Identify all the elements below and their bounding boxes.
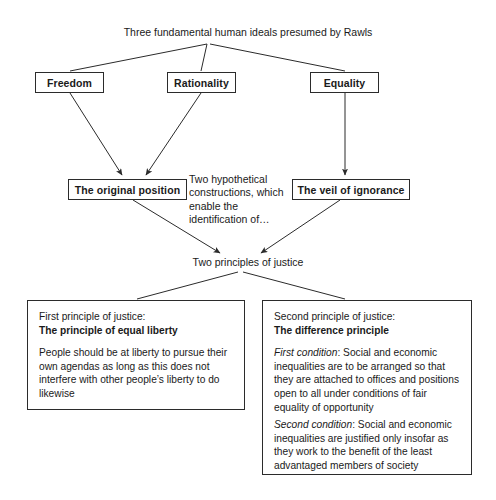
line-two-principles-to-first-principle <box>137 272 238 299</box>
first-principle-title: The principle of equal liberty <box>39 324 233 338</box>
second-principle-second-condition: Second condition: Social and economic in… <box>274 418 460 472</box>
node-freedom[interactable]: Freedom <box>35 72 104 93</box>
second-condition-label: Second condition <box>274 419 352 430</box>
node-the-veil-of-ignorance[interactable]: The veil of ignorance <box>292 179 410 200</box>
second-principle-lead: Second principle of justice: <box>274 310 460 324</box>
diagram-canvas: Three fundamental human ideals presumed … <box>0 0 496 500</box>
second-principle-first-condition: First condition: Social and economic ine… <box>274 346 460 414</box>
note-hypothetical-constructions: Two hypothetical constructions, which en… <box>189 173 289 227</box>
first-condition-label: First condition <box>274 347 337 358</box>
second-principle-title: The difference principle <box>274 324 460 338</box>
box-first-principle-of-justice[interactable]: First principle of justice: The principl… <box>27 300 245 410</box>
arrow-freedom-to-original-position <box>70 93 122 175</box>
first-principle-lead: First principle of justice: <box>39 310 233 324</box>
line-two-principles-to-second-principle <box>243 272 345 299</box>
first-principle-body: People should be at liberty to pursue th… <box>39 346 233 400</box>
node-rationality[interactable]: Rationality <box>167 72 236 93</box>
box-second-principle-of-justice[interactable]: Second principle of justice: The differe… <box>262 300 472 475</box>
line-title-to-rationality <box>201 44 207 71</box>
arrow-rationality-to-original-position <box>146 93 201 175</box>
line-title-to-freedom <box>70 44 207 71</box>
diagram-title: Three fundamental human ideals presumed … <box>0 26 496 38</box>
node-the-original-position[interactable]: The original position <box>68 179 187 200</box>
line-title-to-equality <box>210 44 345 71</box>
node-equality[interactable]: Equality <box>310 72 379 93</box>
node-two-principles-of-justice: Two principles of justice <box>0 256 496 268</box>
